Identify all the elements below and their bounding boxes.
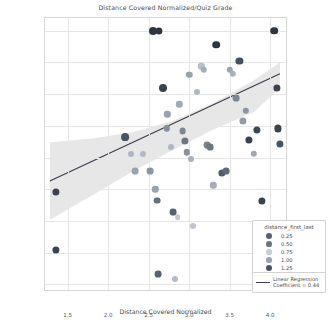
y-gridline [45, 284, 286, 285]
y-gridline [45, 221, 286, 222]
scatter-point [153, 197, 160, 204]
y-gridline [45, 94, 286, 95]
x-gridline [149, 18, 150, 290]
scatter-point [233, 95, 240, 102]
size-legend-item[interactable]: 0.75 [257, 248, 321, 256]
scatter-point [270, 27, 278, 35]
size-legend-dot-wrap [257, 257, 281, 263]
scatter-point [194, 89, 200, 95]
size-legend-dot [266, 233, 272, 239]
scatter-point [147, 168, 154, 175]
scatter-point [128, 151, 134, 157]
regression-coefficient-label: Coefficient = 0.44 [273, 282, 319, 288]
y-gridline [45, 158, 286, 159]
size-legend[interactable]: distance_first_last 0.250.500.751.001.25 [252, 220, 326, 276]
x-gridline [189, 18, 190, 290]
x-gridline [108, 18, 109, 290]
x-axis-label: Distance Covered Normalized [0, 308, 331, 315]
size-legend-item[interactable]: 1.00 [257, 256, 321, 264]
size-legend-title: distance_first_last [257, 224, 321, 230]
size-legend-dot-wrap [257, 265, 281, 272]
x-gridline [68, 18, 69, 290]
scatter-point [223, 168, 230, 175]
plot-area: 0.02.55.07.510.012.515.017.520.01.52.02.… [44, 17, 287, 291]
scatter-point [168, 144, 174, 150]
regression-legend[interactable]: Linear Regression Coefficient = 0.44 [252, 272, 326, 293]
scatter-point [207, 144, 214, 151]
regression-line-swatch [256, 282, 270, 283]
size-legend-dot-wrap [257, 249, 281, 254]
x-gridline [230, 18, 231, 290]
scatter-point [190, 223, 196, 229]
y-gridline [45, 189, 286, 190]
scatter-point [155, 271, 162, 278]
scatter-point [121, 133, 129, 141]
y-gridline [45, 253, 286, 254]
scatter-point [188, 156, 194, 162]
scatter-point [132, 168, 139, 175]
chart-title: Distance Covered Normalized/Quiz Grade [0, 4, 331, 11]
y-gridline [45, 62, 286, 63]
size-legend-dot [266, 257, 272, 263]
scatter-point [212, 41, 220, 49]
size-legend-dot [266, 249, 271, 254]
scatter-point [175, 214, 181, 220]
size-legend-label: 1.00 [281, 257, 293, 263]
size-legend-item[interactable]: 1.25 [257, 264, 321, 272]
size-legend-label: 0.75 [281, 249, 293, 255]
size-legend-item[interactable]: 0.25 [257, 232, 321, 240]
size-legend-dot [266, 265, 273, 272]
size-legend-dot-wrap [257, 241, 281, 247]
scatter-point [172, 276, 178, 282]
size-legend-label: 1.25 [281, 265, 293, 271]
size-legend-label: 0.25 [281, 233, 293, 239]
size-legend-item[interactable]: 0.50 [257, 240, 321, 248]
size-legend-label: 0.50 [281, 241, 293, 247]
y-gridline [45, 31, 286, 32]
scatter-point [179, 127, 186, 134]
scatter-point [159, 84, 167, 92]
size-legend-dot-wrap [257, 233, 281, 239]
scatter-chart-figure: Distance Covered Normalized/Quiz Grade 0… [0, 0, 331, 327]
size-legend-dot [266, 241, 272, 247]
scatter-point [140, 151, 146, 157]
